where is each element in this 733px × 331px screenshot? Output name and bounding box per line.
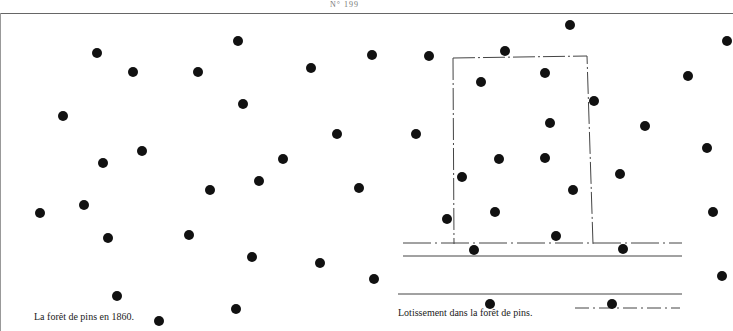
- tree-dot-icon: [607, 299, 617, 309]
- tree-dot-icon: [551, 231, 561, 241]
- tree-dot-icon: [128, 67, 138, 77]
- tree-dot-icon: [205, 185, 215, 195]
- tree-dot-icon: [354, 183, 364, 193]
- tree-dot-icon: [618, 244, 628, 254]
- tree-dot-icon: [442, 214, 452, 224]
- tree-dot-icon: [683, 71, 693, 81]
- tree-dot-icon: [490, 207, 500, 217]
- tree-dot-icon: [717, 271, 727, 281]
- tree-dot-icon: [494, 154, 504, 164]
- tree-dot-icon: [92, 48, 102, 58]
- tree-dot-icon: [545, 118, 555, 128]
- tree-dot-icon: [500, 46, 510, 56]
- tree-dot-icon: [193, 67, 203, 77]
- tree-dot-icon: [589, 96, 599, 106]
- tree-dot-icon: [306, 63, 316, 73]
- tree-dot-icon: [247, 252, 257, 262]
- tree-dot-icon: [332, 129, 342, 139]
- tree-dot-icon: [615, 169, 625, 179]
- tree-dot-icon: [103, 233, 113, 243]
- tree-dot-icon: [540, 153, 550, 163]
- tree-dot-icon: [708, 207, 718, 217]
- tree-dot-icon: [315, 258, 325, 268]
- tree-dot-icon: [112, 291, 122, 301]
- tree-dot-icon: [238, 99, 248, 109]
- tree-dot-icon: [254, 176, 264, 186]
- tree-dot-icon: [476, 77, 486, 87]
- tree-dot-icon: [457, 172, 467, 182]
- tree-dot-icon: [411, 129, 421, 139]
- tree-dot-icon: [231, 304, 241, 314]
- left-figure-caption: La forêt de pins en 1860.: [34, 311, 134, 322]
- tree-dot-icon: [184, 230, 194, 240]
- tree-dot-icon: [233, 36, 243, 46]
- tree-dot-icon: [98, 158, 108, 168]
- tree-dot-icon: [702, 143, 712, 153]
- tree-dot-icon: [369, 274, 379, 284]
- tree-dot-icon: [58, 111, 68, 121]
- lot-plan-lines: [0, 0, 733, 331]
- tree-dot-icon: [540, 68, 550, 78]
- tree-dot-icon: [79, 200, 89, 210]
- tree-dot-icon: [424, 51, 434, 61]
- tree-dot-icon: [137, 146, 147, 156]
- tree-dot-icon: [565, 20, 575, 30]
- tree-dot-icon: [640, 121, 650, 131]
- tree-dot-icon: [568, 185, 578, 195]
- tree-dot-icon: [722, 36, 732, 46]
- tree-dot-icon: [35, 208, 45, 218]
- tree-dot-icon: [469, 245, 479, 255]
- right-figure-caption: Lotissement dans la forêt de pins.: [398, 307, 532, 318]
- tree-dot-icon: [367, 50, 377, 60]
- tree-dot-icon: [154, 316, 164, 326]
- tree-dot-icon: [278, 154, 288, 164]
